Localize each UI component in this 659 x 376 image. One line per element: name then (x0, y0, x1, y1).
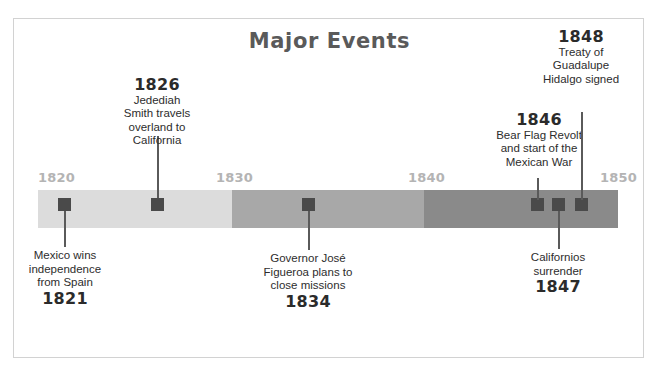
event-callout-1834: Governor José Figueroa plans to close mi… (245, 252, 371, 308)
timeline-marker-1826[interactable] (151, 198, 164, 211)
event-text-1847: Californios surrender (503, 251, 613, 278)
leader-line-1848 (581, 112, 583, 200)
decade-label-1820: 1820 (38, 170, 75, 185)
leader-line-1821 (64, 211, 66, 247)
event-callout-1847: Californios surrender 1847 (503, 251, 613, 294)
leader-line-1846 (537, 178, 539, 200)
event-callout-1826: 1826 Jedediah Smith travels overland to … (103, 78, 211, 148)
timeline-segment-1830s (232, 190, 424, 228)
timeline-marker-1847[interactable] (552, 198, 565, 211)
leader-line-1834 (308, 211, 310, 250)
event-callout-1821: Mexico wins independence from Spain 1821 (14, 249, 116, 305)
timeline-marker-1834[interactable] (302, 198, 315, 211)
event-text-1821: Mexico wins independence from Spain (14, 249, 116, 290)
event-text-1848: Treaty of Guadalupe Hidalgo signed (525, 46, 637, 87)
timeline-marker-1821[interactable] (58, 198, 71, 211)
leader-line-1847 (558, 211, 560, 249)
event-callout-1848: 1848 Treaty of Guadalupe Hidalgo signed (525, 30, 637, 86)
event-year-1834: 1834 (245, 295, 371, 309)
timeline-segment-1840s (424, 190, 618, 228)
event-year-1848: 1848 (525, 30, 637, 44)
event-year-1826: 1826 (103, 78, 211, 92)
decade-label-1830: 1830 (216, 170, 253, 185)
event-year-1821: 1821 (14, 292, 116, 306)
decade-label-1840: 1840 (408, 170, 445, 185)
timeline-infographic: Major Events 1820 1830 1840 1850 Mexico … (0, 0, 659, 376)
decade-label-1850: 1850 (600, 170, 637, 185)
event-year-1847: 1847 (503, 280, 613, 294)
event-text-1834: Governor José Figueroa plans to close mi… (245, 252, 371, 293)
event-text-1826: Jedediah Smith travels overland to Calif… (103, 94, 211, 148)
